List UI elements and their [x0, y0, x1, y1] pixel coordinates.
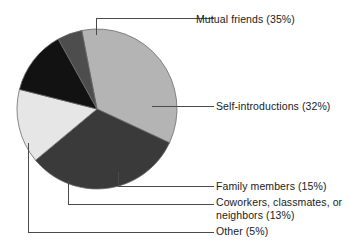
pie-label-other: Other (5%) [216, 225, 268, 238]
pie-label-mutual-friends: Mutual friends (35%) [196, 13, 295, 26]
pie-label-self-introductions: Self-introductions (32%) [216, 100, 330, 113]
pie-slice-group [17, 29, 177, 189]
pie-label-family-members: Family members (15%) [216, 180, 327, 193]
pie-chart-figure: Mutual friends (35%) Self-introductions … [0, 0, 349, 249]
pie-label-coworkers: Coworkers, classmates, or neighbors (13%… [216, 196, 344, 221]
